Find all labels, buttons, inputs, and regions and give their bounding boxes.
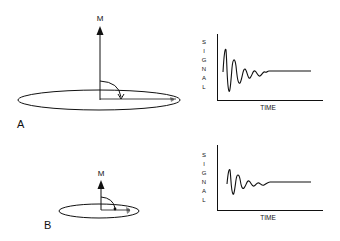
ylabel-letter: G (202, 57, 207, 63)
panel-b-vector-diagram: M B (44, 169, 139, 231)
xlabel-b: TIME (260, 214, 276, 221)
arc-arrowhead-icon-b (114, 208, 117, 211)
xlabel-a: TIME (260, 104, 276, 111)
figure: M A S I G N A L TIME M B S (0, 0, 340, 241)
fid-signal-b (227, 170, 311, 195)
panel-label-b: B (44, 219, 51, 231)
ylabel-letter: I (203, 48, 205, 54)
ylabel-letter: A (202, 188, 206, 194)
vector-label-a: M (97, 14, 104, 23)
fid-signal-a (223, 49, 311, 91)
panel-label-a: A (17, 118, 25, 130)
ylabel-letter: S (202, 39, 206, 45)
panel-a-signal-chart: S I G N A L TIME (202, 34, 323, 111)
disk-edge-shade-a (170, 97, 174, 102)
tip-angle-arc-b (101, 197, 115, 208)
ylabel-letter: A (202, 75, 206, 81)
ylabel-letter: I (203, 161, 205, 167)
panel-b-signal-chart: S I G N A L TIME (202, 145, 323, 221)
ylabel-letter: L (202, 197, 206, 203)
ylabel-letter: N (202, 66, 206, 72)
arrowhead-icon-a (97, 26, 104, 35)
ylabel-letter: G (202, 170, 207, 176)
ylabel-letter: L (202, 84, 206, 90)
ylabel-letter: N (202, 179, 206, 185)
ylabel-letter: S (202, 152, 206, 158)
panel-a-vector-diagram: M A (17, 14, 180, 130)
disk-edge-shade-b (126, 207, 130, 214)
precession-disk-a (18, 90, 180, 110)
arrowhead-icon-b (98, 180, 105, 189)
vector-label-b: M (98, 169, 105, 178)
